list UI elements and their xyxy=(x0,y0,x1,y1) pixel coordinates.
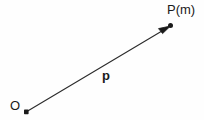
vector-diagram-canvas: P(m) O p xyxy=(0,0,204,120)
vector-shaft-line xyxy=(26,28,167,112)
point-label-origin: O xyxy=(10,99,20,112)
point-label-p-of-m: P(m) xyxy=(167,3,195,16)
target-point-dot xyxy=(168,23,173,28)
origin-point-dot xyxy=(24,110,29,115)
vector-label-p: p xyxy=(102,69,110,82)
vector-diagram-graphics xyxy=(0,0,204,120)
